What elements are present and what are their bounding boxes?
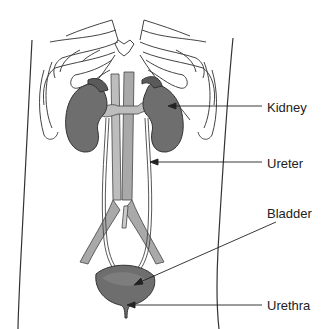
label-kidney: Kidney — [267, 101, 307, 114]
left-kidney — [66, 84, 107, 152]
label-urethra: Urethra — [267, 299, 310, 312]
label-bladder: Bladder — [267, 207, 312, 220]
bladder — [96, 265, 155, 318]
vena-cava — [111, 74, 121, 200]
aorta — [122, 72, 134, 200]
label-ureter: Ureter — [267, 157, 303, 170]
